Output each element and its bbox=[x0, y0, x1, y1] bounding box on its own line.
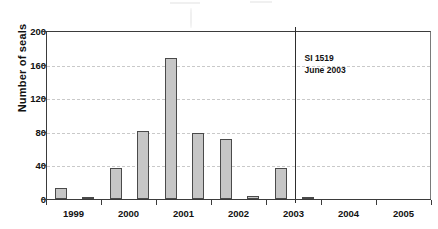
bar-2001-h2 bbox=[192, 133, 204, 199]
bar-2000-h2 bbox=[137, 131, 149, 199]
seal-count-bar-chart: Number of seals 04080120160200 SI 1519 J… bbox=[0, 0, 438, 229]
scan-artifact bbox=[190, 8, 192, 28]
scan-artifact bbox=[250, 1, 272, 3]
gridline-40 bbox=[47, 166, 430, 167]
x-tick-label-1999: 1999 bbox=[44, 208, 104, 219]
x-tick-mark-6 bbox=[211, 200, 212, 205]
annotation-line-2: June 2003 bbox=[305, 64, 346, 76]
x-axis: 1999200020012002200320042005 bbox=[46, 199, 431, 200]
x-tick-label-2000: 2000 bbox=[99, 208, 159, 219]
x-tick-label-2004: 2004 bbox=[319, 208, 379, 219]
x-tick-label-2003: 2003 bbox=[264, 208, 324, 219]
x-tick-label-2005: 2005 bbox=[374, 208, 434, 219]
bar-2003-h1 bbox=[275, 168, 287, 199]
annotation-line-1: SI 1519 bbox=[305, 52, 346, 64]
x-tick-mark-0 bbox=[46, 200, 47, 205]
y-tick-label-0: 0 bbox=[6, 194, 46, 205]
x-tick-mark-4 bbox=[156, 200, 157, 205]
y-axis-ticks: 04080120160200 bbox=[0, 31, 46, 199]
y-tick-label-40: 40 bbox=[6, 160, 46, 171]
y-tick-label-80: 80 bbox=[6, 126, 46, 137]
gridline-80 bbox=[47, 133, 430, 134]
bar-2002-h1 bbox=[220, 139, 232, 199]
bar-2001-h1 bbox=[165, 58, 177, 199]
scan-artifact bbox=[170, 2, 200, 4]
y-tick-label-160: 160 bbox=[6, 59, 46, 70]
gridline-160 bbox=[47, 66, 430, 67]
x-tick-label-2002: 2002 bbox=[209, 208, 269, 219]
bar-2000-h1 bbox=[110, 168, 122, 199]
bar-1999-h1 bbox=[55, 188, 67, 199]
x-tick-mark-10 bbox=[321, 200, 322, 205]
y-tick-label-120: 120 bbox=[6, 93, 46, 104]
june-2003-divider-line bbox=[295, 27, 296, 203]
x-tick-label-2001: 2001 bbox=[154, 208, 214, 219]
x-tick-mark-2 bbox=[101, 200, 102, 205]
x-tick-mark-8 bbox=[266, 200, 267, 205]
y-tick-label-200: 200 bbox=[6, 26, 46, 37]
plot-area: SI 1519 June 2003 bbox=[46, 31, 431, 199]
gridline-120 bbox=[47, 99, 430, 100]
x-tick-mark-12 bbox=[376, 200, 377, 205]
annotation-si-1519: SI 1519 June 2003 bbox=[305, 52, 346, 76]
x-tick-mark-14 bbox=[431, 200, 432, 205]
